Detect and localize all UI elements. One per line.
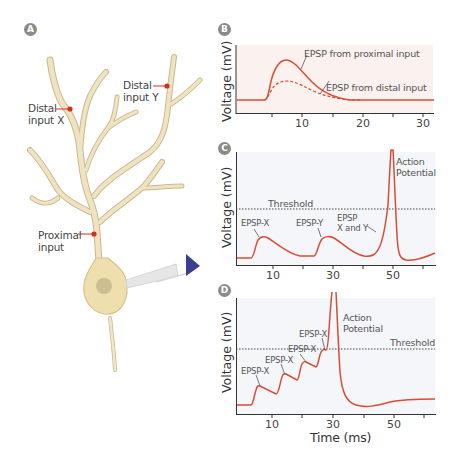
panel-d-xtick: 10 bbox=[265, 418, 279, 431]
epsp-x-annotation-4: EPSP-X bbox=[299, 329, 327, 339]
epsp-x-annotation-2: EPSP-X bbox=[265, 355, 293, 365]
threshold-label: Threshold bbox=[390, 338, 435, 348]
panel-d-xtick: 50 bbox=[387, 418, 401, 431]
panel-d-x-axis-label: Time (ms) bbox=[310, 432, 371, 444]
epsp-x-annotation-3: EPSP-X bbox=[288, 344, 316, 354]
epsp-x-annotation-1: EPSP-X bbox=[241, 366, 269, 376]
panel-d-chart bbox=[0, 0, 462, 469]
action-potential-annotation: Action Potential bbox=[343, 312, 383, 334]
